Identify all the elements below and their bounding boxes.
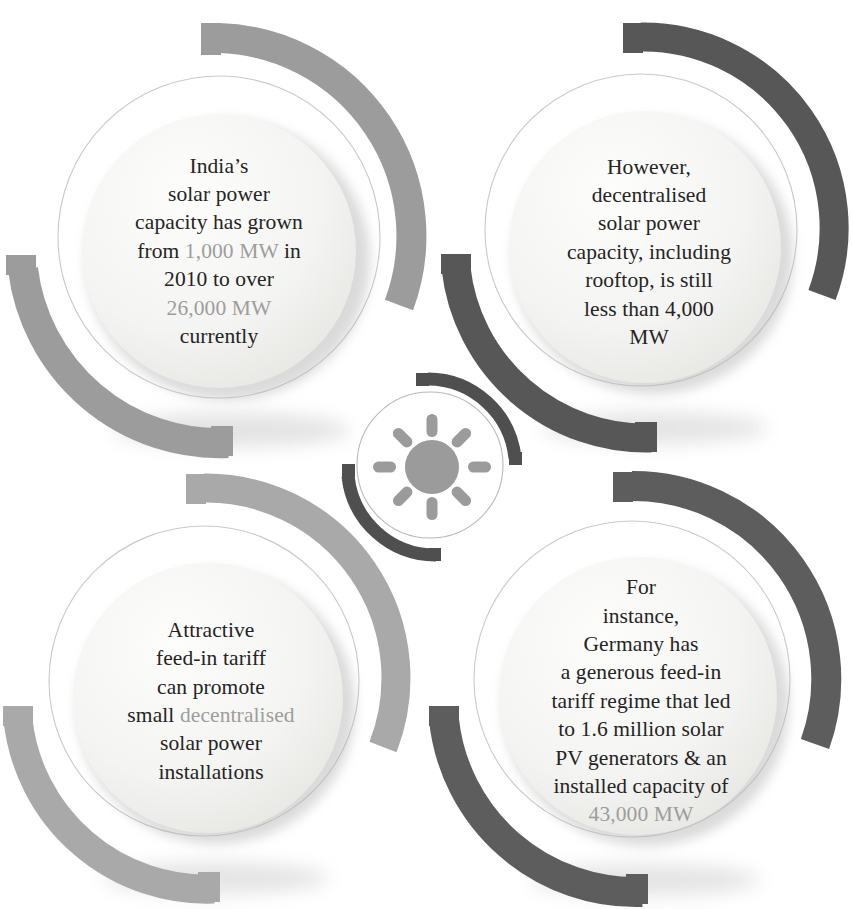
sun-ray-e — [468, 462, 491, 473]
sun-core — [405, 440, 459, 494]
arc-notch-left — [6, 255, 36, 275]
sun-ray-n — [427, 414, 438, 437]
arc-notch-bottom — [211, 426, 233, 456]
inner-disc — [82, 114, 356, 388]
arc-notch-top — [186, 474, 206, 504]
inner-disc — [73, 563, 343, 833]
arc-notch-bottom — [635, 422, 657, 452]
sun-ray-nw — [391, 426, 415, 450]
inner-disc — [499, 557, 777, 835]
sun-ray-sw — [391, 484, 415, 508]
center-sun-node[interactable] — [340, 372, 530, 562]
arc-notch-top — [623, 23, 643, 53]
arc-notch-top — [613, 472, 633, 502]
arc-notch-bottom — [626, 874, 648, 904]
arc-notch-left — [3, 706, 33, 726]
sun-ray-ne — [449, 426, 473, 450]
inner-disc — [509, 111, 781, 383]
arc-notch-left — [429, 706, 459, 726]
sun-ray-se — [449, 484, 473, 508]
sun-ray-w — [373, 462, 396, 473]
sun-icon — [340, 372, 530, 562]
sun-ray-s — [427, 497, 438, 520]
arc-notch-left — [441, 254, 471, 274]
arc-notch-bottom — [198, 872, 220, 902]
arc-notch-top — [201, 23, 221, 55]
